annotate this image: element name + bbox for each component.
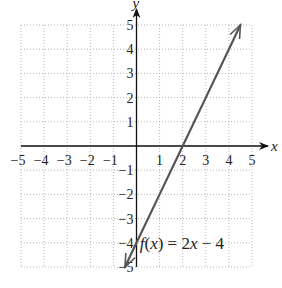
x-tick-label: 5: [249, 153, 256, 168]
x-tick-label: 1: [156, 153, 163, 168]
x-tick-label: 3: [202, 153, 209, 168]
x-tick-label: 4: [225, 153, 232, 168]
y-tick-label: 3: [127, 66, 134, 81]
x-tick-label: −5: [11, 153, 26, 168]
equation-mid: ) = 2: [158, 234, 190, 253]
x-tick-label: −1: [103, 153, 118, 168]
y-tick-label: −2: [119, 187, 134, 202]
x-tick-label: −4: [34, 153, 49, 168]
x-tick-label: −3: [57, 153, 72, 168]
y-tick-label: 2: [127, 91, 134, 106]
y-tick-label: −3: [119, 212, 134, 227]
y-tick-label: 5: [127, 18, 134, 33]
x-tick-label: −2: [80, 153, 95, 168]
equation-tail: − 4: [197, 234, 224, 253]
x-tick-label: 2: [179, 153, 186, 168]
x-axis-label: x: [270, 138, 278, 154]
function-graph: −5−4−3−2−112345−5−4−3−2−112345 x y f(x) …: [0, 0, 282, 288]
y-tick-label: 4: [127, 42, 134, 57]
y-tick-label: −4: [119, 236, 134, 251]
y-axis-label: y: [131, 0, 140, 11]
y-tick-label: 1: [127, 115, 134, 130]
y-tick-label: −1: [119, 163, 134, 178]
equation-label: f(x) = 2x − 4: [140, 234, 225, 253]
